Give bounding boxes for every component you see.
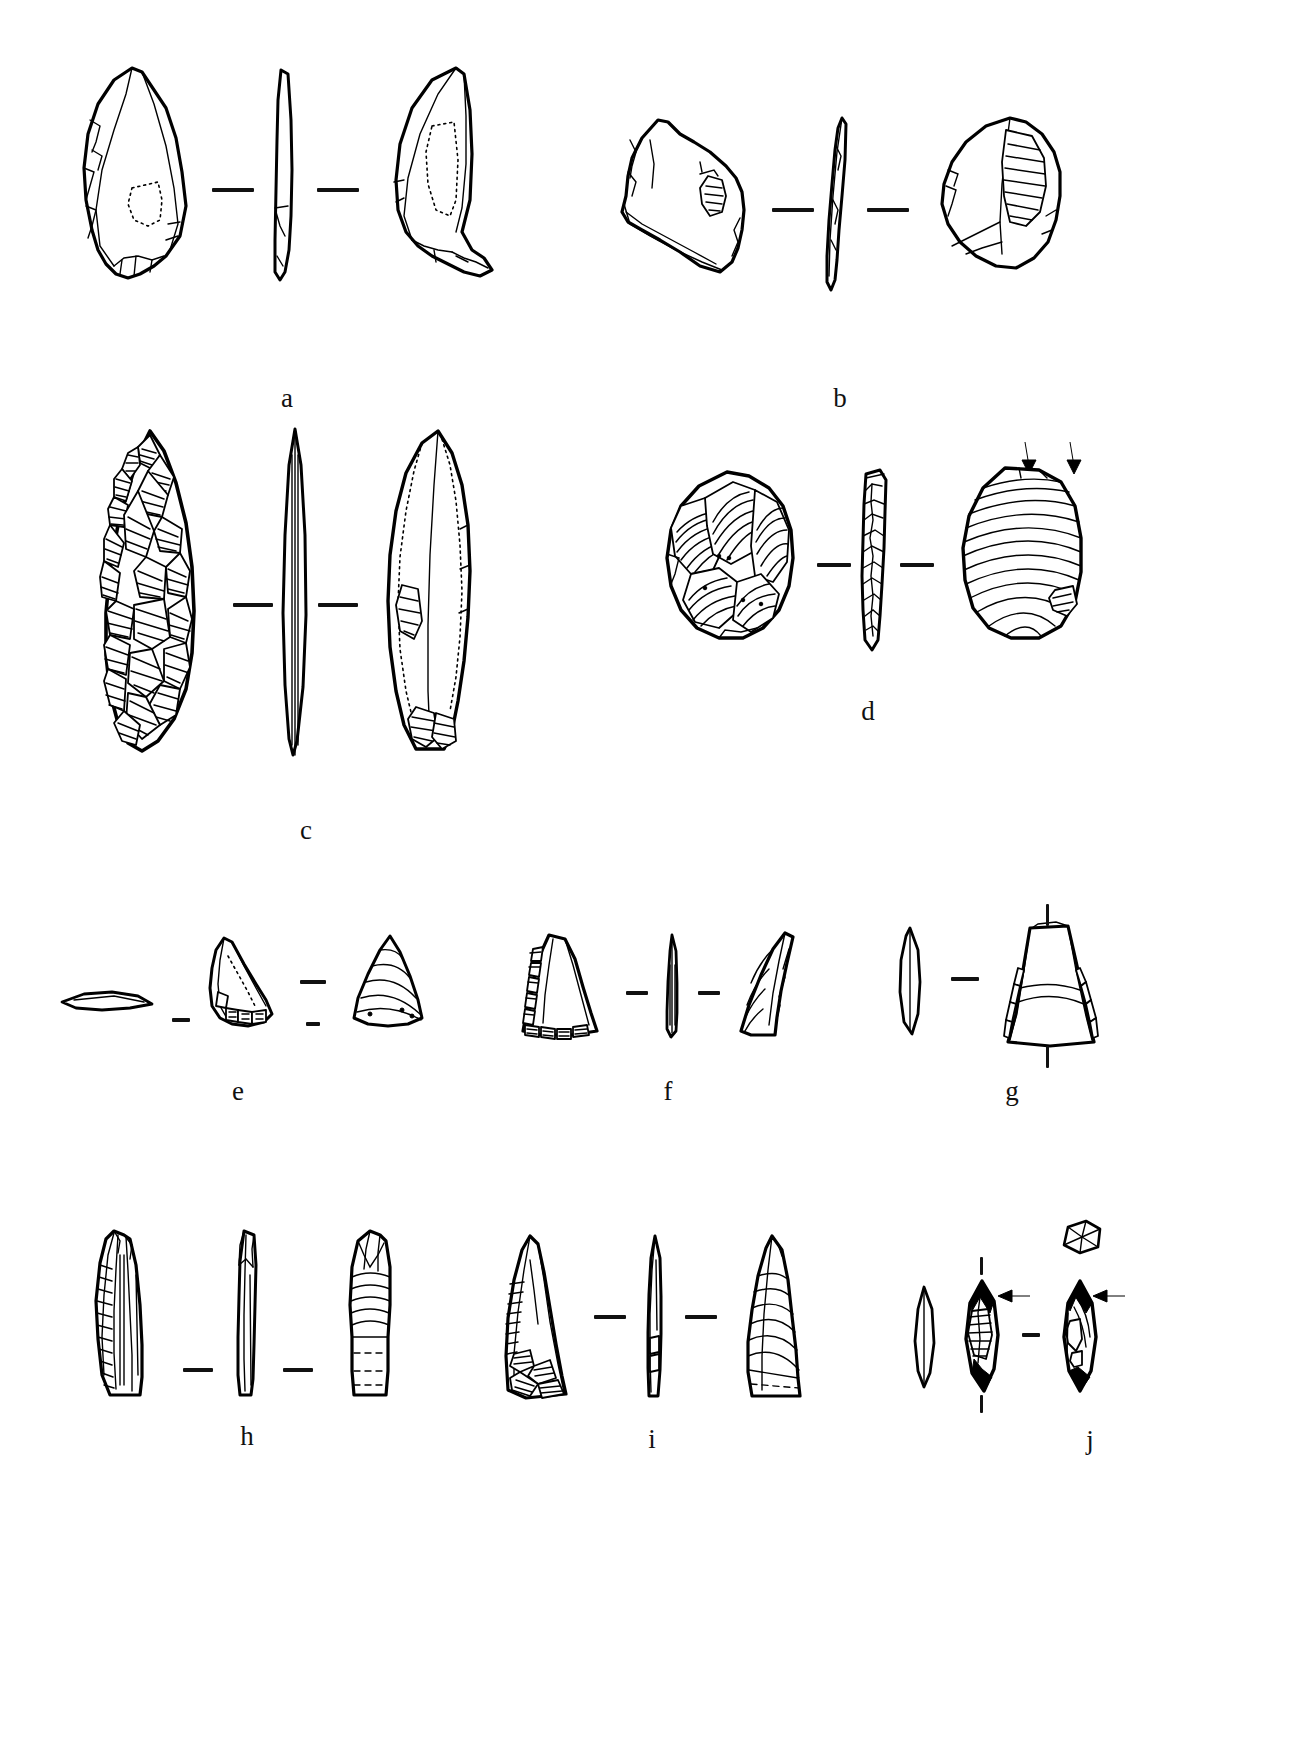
specimen-j-separator-1 <box>1014 1255 1048 1415</box>
view-separator-dash <box>951 977 979 981</box>
specimen-b-separator-2 <box>865 100 910 320</box>
specimen-f-separator-2 <box>687 925 731 1060</box>
specimen-label-f: f <box>648 1078 688 1105</box>
view-separator-dash-vertical <box>1046 904 1049 926</box>
view-separator-dash-vertical <box>980 1257 983 1275</box>
specimen-f-view-profile <box>659 925 687 1060</box>
specimen-b-views <box>590 100 1090 320</box>
view-separator-dash-vertical <box>980 1395 983 1413</box>
specimen-b-view-ventral <box>910 100 1090 320</box>
view-separator-dash <box>594 1315 626 1319</box>
specimen-group-h: h <box>70 1225 420 1405</box>
specimen-i-view-profile <box>633 1230 677 1405</box>
specimen-a-view-dorsal <box>70 60 210 320</box>
view-separator-dash <box>1022 1333 1040 1337</box>
specimen-group-b: b <box>590 100 1090 320</box>
specimen-label-a: a <box>267 385 307 412</box>
specimen-a-separator-2 <box>315 60 360 320</box>
specimen-h-separator-2 <box>276 1225 320 1405</box>
specimen-b-view-dorsal <box>590 100 770 320</box>
specimen-f-separator-1 <box>615 925 659 1060</box>
specimen-label-g: g <box>992 1078 1032 1105</box>
specimen-label-j: j <box>1070 1427 1110 1454</box>
specimen-h-view-dorsal <box>70 1225 176 1405</box>
specimen-group-g: g <box>880 910 1110 1070</box>
specimen-group-j: j <box>880 1215 1130 1415</box>
view-separator-dash <box>900 563 934 567</box>
specimen-group-f: f <box>505 925 825 1060</box>
specimen-a-view-ventral <box>360 60 500 320</box>
specimen-b-view-profile <box>815 100 865 320</box>
specimen-h-separator-1 <box>176 1225 220 1405</box>
specimen-label-e: e <box>218 1078 258 1105</box>
specimen-label-h: h <box>227 1423 267 1450</box>
view-separator-dash-vertical <box>1046 1046 1049 1068</box>
specimen-b-separator-1 <box>770 100 815 320</box>
specimen-label-b: b <box>820 385 860 412</box>
view-separator-dash <box>867 208 909 212</box>
view-separator-dash <box>172 1018 190 1022</box>
lithic-illustration-plate: a <box>0 0 1296 1757</box>
specimen-j-views <box>880 1255 1130 1415</box>
specimen-i-view-dorsal <box>480 1230 586 1405</box>
specimen-i-separator-2 <box>677 1230 724 1405</box>
specimen-h-view-profile <box>220 1225 276 1405</box>
specimen-d-view-profile <box>852 460 898 670</box>
specimen-g-views <box>880 910 1110 1070</box>
specimen-d-separator-2 <box>898 460 935 670</box>
specimen-e-views <box>50 930 440 1060</box>
view-separator-dash <box>233 603 273 607</box>
specimen-i-separator-1 <box>586 1230 633 1405</box>
view-separator-dash <box>212 188 254 192</box>
specimen-c-separator-1 <box>230 425 275 785</box>
specimen-group-e: e <box>50 930 440 1060</box>
specimen-c-view-dorsal <box>80 425 230 785</box>
view-separator-dash <box>306 1022 320 1026</box>
specimen-a-separator-1 <box>210 60 255 320</box>
specimen-label-i: i <box>632 1426 672 1453</box>
specimen-i-views <box>480 1230 820 1405</box>
specimen-a-view-profile <box>255 60 315 320</box>
specimen-e-view-section <box>54 930 164 1060</box>
specimen-d-views <box>645 460 1105 670</box>
specimen-h-views <box>70 1225 420 1405</box>
specimen-d-separator-1 <box>815 460 852 670</box>
specimen-f-view-ventral <box>731 925 825 1060</box>
specimen-group-i: i <box>480 1230 820 1405</box>
specimen-g-view-profile <box>880 910 940 1070</box>
view-separator-dash <box>317 188 359 192</box>
specimen-g-view-face <box>990 910 1110 1070</box>
specimen-d-view-dorsal <box>645 460 815 670</box>
view-separator-dash <box>772 208 814 212</box>
specimen-e-separator-2 <box>290 930 336 1060</box>
specimen-group-a: a <box>70 60 500 320</box>
specimen-label-c: c <box>286 817 326 844</box>
view-separator-dash <box>626 991 648 995</box>
view-separator-dash <box>283 1368 313 1372</box>
specimen-e-separator-1 <box>164 930 198 1060</box>
specimen-c-separator-2 <box>315 425 360 785</box>
view-separator-dash <box>318 603 358 607</box>
specimen-c-view-profile <box>275 425 315 785</box>
view-separator-dash <box>817 563 851 567</box>
specimen-a-views <box>70 60 500 320</box>
view-separator-dash <box>183 1368 213 1372</box>
specimen-j-view-dorsal <box>950 1255 1014 1415</box>
specimen-j-view-section <box>898 1255 950 1415</box>
specimen-j-view-ventral <box>1048 1255 1112 1415</box>
specimen-d-view-ventral <box>935 460 1105 670</box>
specimen-c-views <box>80 425 510 785</box>
specimen-f-view-dorsal <box>505 925 615 1060</box>
view-separator-dash <box>300 980 326 984</box>
specimen-g-separator-1 <box>940 910 990 1070</box>
specimen-h-view-ventral <box>320 1225 420 1405</box>
specimen-e-view-dorsal <box>198 930 290 1060</box>
specimen-group-c: c <box>80 425 510 785</box>
view-separator-dash <box>698 991 720 995</box>
specimen-i-view-ventral <box>724 1230 820 1405</box>
specimen-label-d: d <box>848 698 888 725</box>
specimen-e-view-ventral <box>336 930 436 1060</box>
view-separator-dash <box>685 1315 717 1319</box>
specimen-c-view-ventral <box>360 425 510 785</box>
specimen-f-views <box>505 925 825 1060</box>
